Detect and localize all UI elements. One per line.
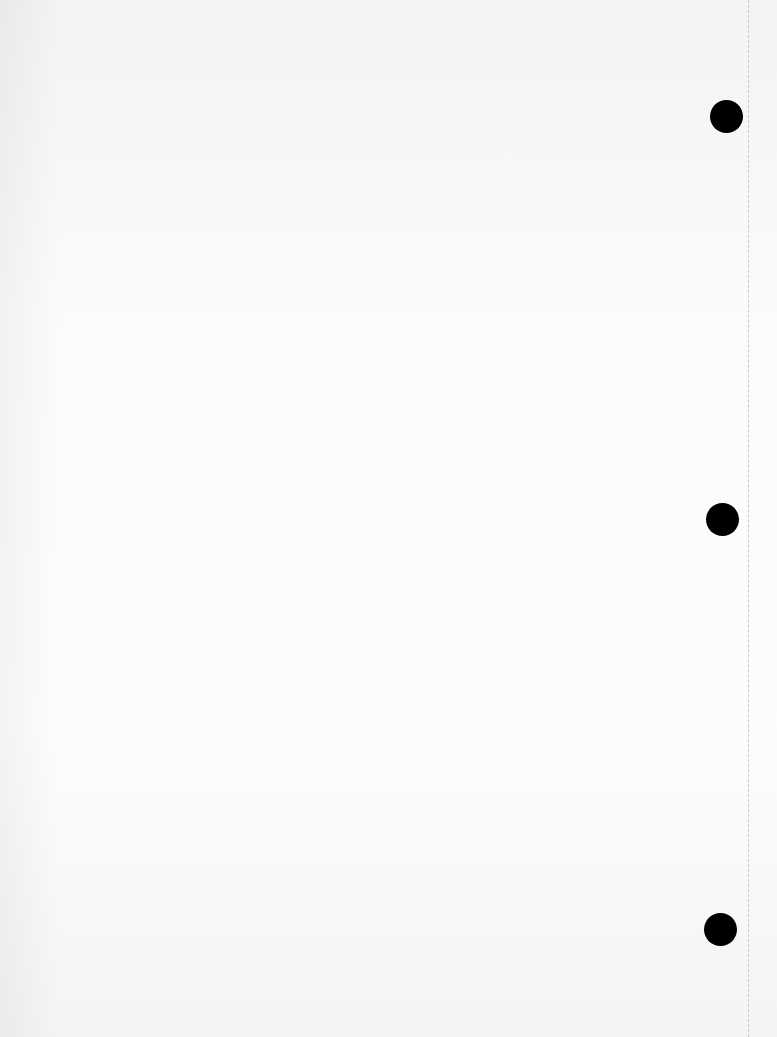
punch-hole-top <box>710 100 743 133</box>
punch-hole-bottom <box>704 913 737 946</box>
blank-paper-sheet <box>0 0 777 1037</box>
page-edge-shadow <box>0 0 60 1037</box>
punch-hole-middle <box>706 503 739 536</box>
perforation-line <box>748 0 749 1037</box>
